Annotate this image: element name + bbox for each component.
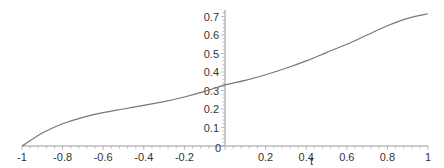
x-tick-label: -1 <box>17 151 27 163</box>
y-tick-label: 0.4 <box>204 66 219 78</box>
x-tick-label: 0 <box>215 142 221 154</box>
y-tick-label: 0.6 <box>204 29 219 41</box>
y-tick-label: 0.7 <box>204 11 219 23</box>
y-tick-label: 0.5 <box>204 48 219 60</box>
x-tick-label: -0.6 <box>94 151 113 163</box>
x-tick-label: 0.8 <box>380 151 395 163</box>
x-axis-label: t <box>310 155 313 167</box>
x-tick-label: -0.2 <box>175 151 194 163</box>
x-tick-label: 0.6 <box>339 151 354 163</box>
x-tick-label: -0.4 <box>134 151 153 163</box>
axes <box>22 10 428 146</box>
y-tick-label: 0.1 <box>204 122 219 134</box>
line-chart: -1-0.8-0.6-0.4-0.200.20.40.60.810.10.20.… <box>0 0 444 168</box>
x-tick-label: 0.2 <box>258 151 273 163</box>
x-tick-label: -0.8 <box>53 151 72 163</box>
y-tick-label: 0.2 <box>204 103 219 115</box>
x-tick-label: 1 <box>425 151 431 163</box>
